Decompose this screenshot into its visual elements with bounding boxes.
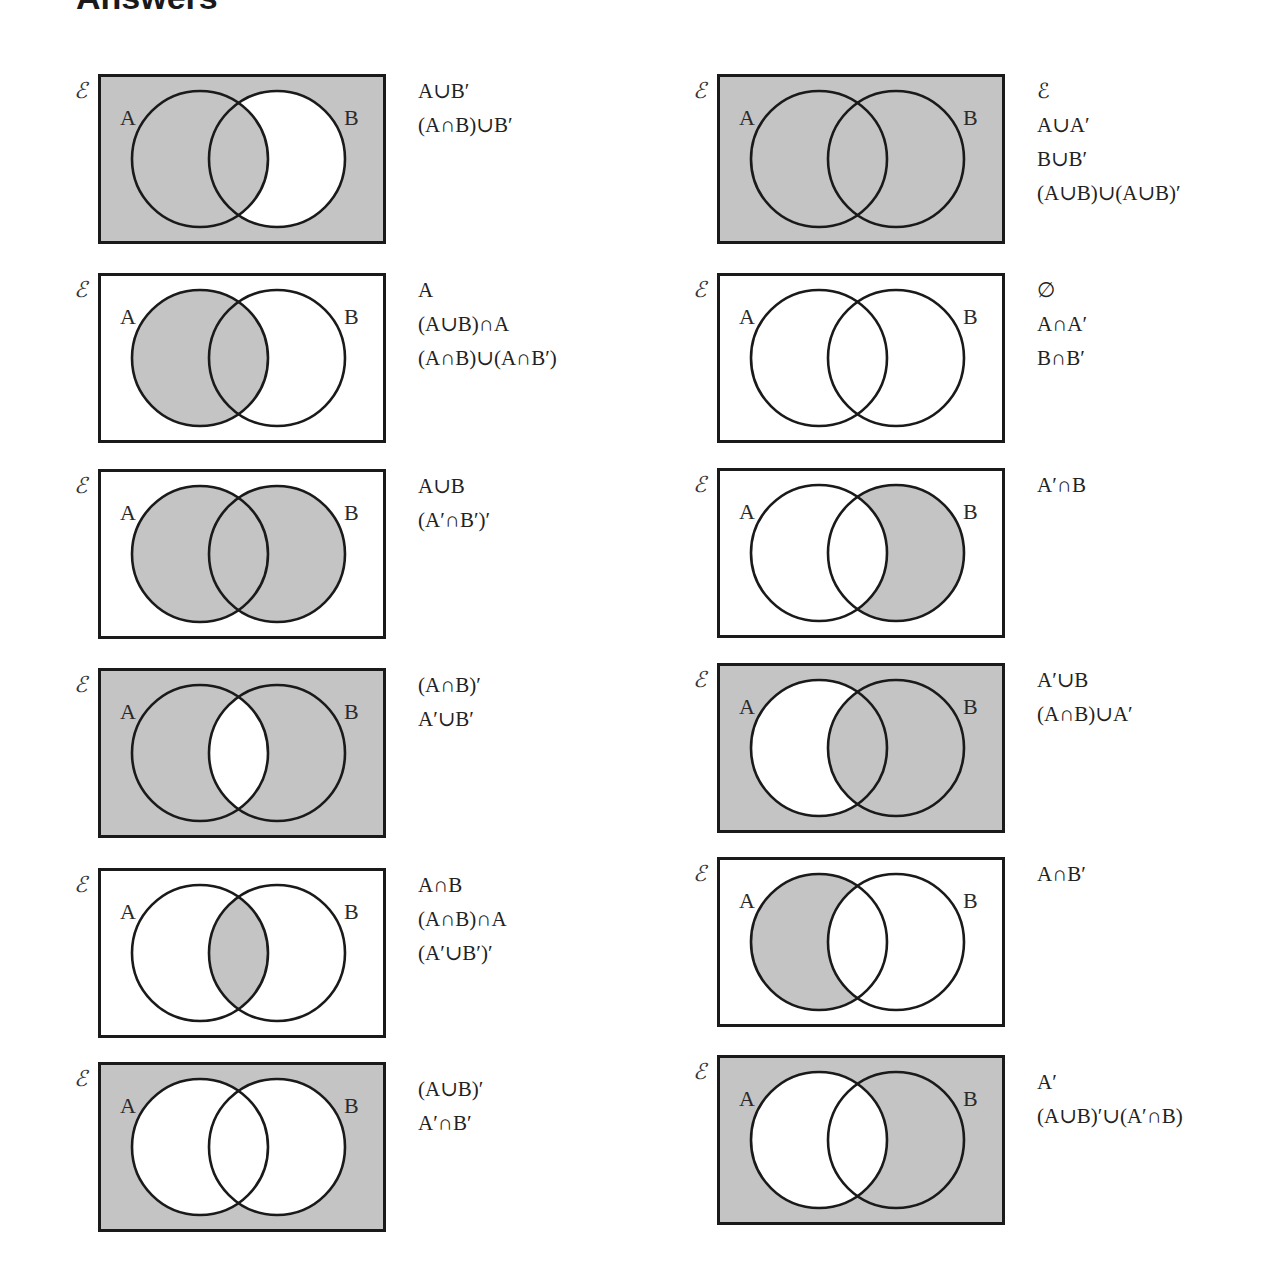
set-b-label: B [963, 888, 978, 913]
expression: A∪B [418, 469, 490, 503]
expression: (A∪B)∩A [418, 307, 557, 341]
expression-list: ℰ A∪A′ B∪B′ (A∪B)∪(A∪B)′ [1037, 74, 1181, 210]
venn-svg: A B [98, 868, 386, 1038]
expression-list: A∩B (A∩B)∩A (A′∪B′)′ [418, 868, 507, 970]
expression: A∪B′ [418, 74, 513, 108]
expression: (A∪B)′ [418, 1072, 483, 1106]
set-a-label: A [120, 304, 136, 329]
expression-list: A∪B (A′∩B′)′ [418, 469, 490, 537]
venn-svg: A B [717, 857, 1005, 1027]
venn-diagram: A B [717, 273, 1005, 447]
expression: B∪B′ [1037, 142, 1181, 176]
universal-set-symbol: ℰ [693, 861, 706, 886]
expression-list: A′∩B [1037, 468, 1086, 502]
venn-item: ℰ A B ℰ A∪A′ B∪B′ (A∪B)∪(A∪B)′ [695, 74, 1288, 254]
venn-svg: A B [717, 273, 1005, 443]
expression: (A∪B)′∪(A′∩B) [1037, 1099, 1183, 1133]
expression: A [418, 273, 557, 307]
expression: A′ [1037, 1065, 1183, 1099]
universal-set-symbol: ℰ [693, 1059, 706, 1084]
venn-diagram: A B [98, 868, 386, 1042]
venn-item: ℰ A B A∪B (A′∩B′)′ [76, 469, 676, 649]
venn-svg: A B [98, 1062, 386, 1232]
set-a-label: A [120, 105, 136, 130]
expression-list: A∩B′ [1037, 857, 1086, 891]
expression: (A∩B)′ [418, 668, 481, 702]
venn-svg: A B [98, 273, 386, 443]
venn-svg: A B [98, 469, 386, 639]
set-b-label: B [344, 699, 359, 724]
venn-diagram: A B [98, 1062, 386, 1236]
set-a-label: A [739, 105, 755, 130]
expression-list: ∅ A∩A′ B∩B′ [1037, 273, 1087, 375]
set-a-label: A [739, 304, 755, 329]
universal-set-symbol: ℰ [74, 78, 87, 103]
expression: (A∩B)∪A′ [1037, 697, 1133, 731]
venn-svg: A B [98, 668, 386, 838]
venn-item: ℰ A B A∩B (A∩B)∩A (A′∪B′)′ [76, 868, 676, 1048]
venn-diagram: A B [98, 668, 386, 842]
expression: B∩B′ [1037, 341, 1087, 375]
universal-set-symbol: ℰ [693, 472, 706, 497]
set-b-label: B [344, 1093, 359, 1118]
expression-list: (A∩B)′ A′∪B′ [418, 668, 481, 736]
set-a-label: A [120, 699, 136, 724]
set-a-label: A [120, 1093, 136, 1118]
set-b-label: B [963, 694, 978, 719]
expression: A′∪B [1037, 663, 1133, 697]
set-b-label: B [963, 499, 978, 524]
expression: A∪A′ [1037, 108, 1181, 142]
universal-set-symbol: ℰ [693, 277, 706, 302]
set-a-label: A [739, 499, 755, 524]
venn-svg: A B [717, 1055, 1005, 1225]
expression: A∩A′ [1037, 307, 1087, 341]
venn-item: ℰ A B A′∩B [695, 468, 1288, 648]
expression: A′∩B′ [418, 1106, 483, 1140]
venn-item: ℰ A B A (A∪B)∩A (A∩B)∪(A∩B′) [76, 273, 676, 453]
venn-diagram: A B [717, 468, 1005, 642]
venn-diagram: A B [98, 273, 386, 447]
set-a-label: A [120, 500, 136, 525]
expression: (A∩B)∪(A∩B′) [418, 341, 557, 375]
set-b-label: B [344, 105, 359, 130]
venn-diagram: A B [98, 74, 386, 248]
universal-set-symbol: ℰ [74, 672, 87, 697]
expression: (A∩B)∩A [418, 902, 507, 936]
venn-diagram: A B [717, 857, 1005, 1031]
venn-item: ℰ A B (A∩B)′ A′∪B′ [76, 668, 676, 848]
expression: (A∪B)∪(A∪B)′ [1037, 176, 1181, 210]
expression: ℰ [1037, 74, 1181, 108]
venn-item: ℰ A B A′∪B (A∩B)∪A′ [695, 663, 1288, 843]
expression: A′∩B [1037, 468, 1086, 502]
expression: A′∪B′ [418, 702, 481, 736]
universal-set-symbol: ℰ [74, 473, 87, 498]
expression: ∅ [1037, 273, 1087, 307]
expression-list: A∪B′ (A∩B)∪B′ [418, 74, 513, 142]
venn-diagram: A B [717, 1055, 1005, 1229]
set-b-label: B [963, 1086, 978, 1111]
venn-diagram: A B [717, 663, 1005, 837]
venn-item: ℰ A B (A∪B)′ A′∩B′ [76, 1062, 676, 1242]
venn-item: ℰ A B A∪B′ (A∩B)∪B′ [76, 74, 676, 254]
expression-list: A (A∪B)∩A (A∩B)∪(A∩B′) [418, 273, 557, 375]
set-b-label: B [344, 899, 359, 924]
venn-svg: A B [717, 663, 1005, 833]
venn-diagram: A B [98, 469, 386, 643]
expression-list: A′∪B (A∩B)∪A′ [1037, 663, 1133, 731]
venn-item: ℰ A B A∩B′ [695, 857, 1288, 1037]
venn-svg: A B [717, 74, 1005, 244]
set-a-label: A [739, 1086, 755, 1111]
expression: A∩B [418, 868, 507, 902]
universal-set-symbol: ℰ [693, 667, 706, 692]
venn-item: ℰ A B ∅ A∩A′ B∩B′ [695, 273, 1288, 453]
set-a-label: A [739, 694, 755, 719]
universal-set-symbol: ℰ [74, 277, 87, 302]
expression: A∩B′ [1037, 857, 1086, 891]
expression-list: (A∪B)′ A′∩B′ [418, 1072, 483, 1140]
set-b-label: B [344, 500, 359, 525]
page-title: Answers [76, 0, 218, 17]
set-a-label: A [120, 899, 136, 924]
universal-set-symbol: ℰ [74, 872, 87, 897]
venn-svg: A B [98, 74, 386, 244]
set-b-label: B [963, 304, 978, 329]
